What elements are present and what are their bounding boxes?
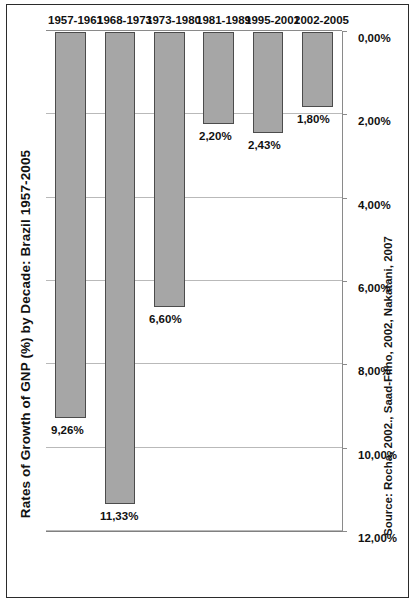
gridline-800 bbox=[46, 363, 342, 364]
bar-2002-2005[interactable] bbox=[302, 32, 333, 107]
chart-page: Rates of Growth of GNP (%) by Decade: Br… bbox=[0, 0, 415, 603]
value-axis-line bbox=[342, 32, 343, 532]
bar-value-label-1968-1973: 11,33% bbox=[100, 510, 138, 522]
category-label-1995-2001: 1995-2001 bbox=[245, 14, 300, 26]
chart-title: Rates of Growth of GNP (%) by Decade: Br… bbox=[18, 74, 33, 594]
category-label-2002-2005: 2002-2005 bbox=[294, 14, 349, 26]
value-axis-tick-label: 0,00% bbox=[358, 32, 391, 44]
gridline-1000 bbox=[46, 447, 342, 448]
bar-1957-1961[interactable] bbox=[55, 32, 86, 418]
gridline-1200 bbox=[46, 530, 342, 531]
bar-value-label-1981-1989: 2,20% bbox=[198, 130, 231, 142]
category-label-1981-1989: 1981-1989 bbox=[195, 14, 250, 26]
bar-1968-1973[interactable] bbox=[104, 32, 135, 504]
bar-value-label-1957-1961: 9,26% bbox=[50, 424, 83, 436]
gridline-000 bbox=[46, 30, 342, 31]
value-axis-tick-label: 8,00% bbox=[358, 365, 391, 377]
bar-value-label-2002-2005: 1,80% bbox=[297, 113, 330, 125]
bar-value-label-1995-2001: 2,43% bbox=[248, 139, 281, 151]
value-axis-tick-label: 6,00% bbox=[358, 282, 391, 294]
value-axis-tick-label: 12,00% bbox=[358, 532, 397, 544]
bar-1981-1989[interactable] bbox=[203, 32, 234, 124]
plot-gridlines-layer bbox=[46, 32, 342, 531]
category-label-1968-1973: 1968-1973 bbox=[97, 14, 152, 26]
category-label-1973-1980: 1973-1980 bbox=[146, 14, 201, 26]
bar-1973-1980[interactable] bbox=[154, 32, 185, 307]
category-label-1957-1961: 1957-1961 bbox=[47, 14, 102, 26]
value-axis-tick-label: 10,00% bbox=[358, 449, 397, 461]
rotated-chart-canvas: Rates of Growth of GNP (%) by Decade: Br… bbox=[10, 8, 406, 594]
gridline-400 bbox=[46, 197, 342, 198]
gridline-600 bbox=[46, 280, 342, 281]
plot-area bbox=[46, 32, 342, 532]
bar-value-label-1973-1980: 6,60% bbox=[149, 313, 182, 325]
chart-frame-border: Rates of Growth of GNP (%) by Decade: Br… bbox=[6, 4, 409, 598]
value-axis-tick-label: 2,00% bbox=[358, 115, 391, 127]
bar-1995-2001[interactable] bbox=[252, 32, 283, 133]
value-axis-tick-label: 4,00% bbox=[358, 199, 391, 211]
